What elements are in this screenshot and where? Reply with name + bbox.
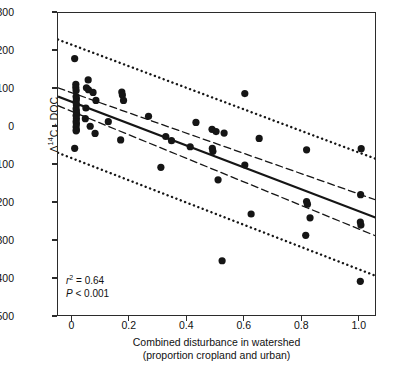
data-point bbox=[221, 129, 228, 136]
data-point bbox=[71, 145, 78, 152]
x-tick-mark bbox=[71, 316, 72, 321]
x-tick-mark bbox=[358, 316, 359, 321]
p-value: < 0.001 bbox=[75, 288, 109, 299]
data-point bbox=[82, 104, 89, 111]
data-point bbox=[241, 90, 248, 97]
y-tick-label: -300 bbox=[0, 235, 14, 245]
y-tick-label: 300 bbox=[0, 7, 14, 17]
x-tick-mark bbox=[186, 316, 187, 321]
x-tick-label: 0.2 bbox=[109, 320, 149, 331]
x-tick-label: 0.4 bbox=[166, 320, 206, 331]
x-axis-title-line2: (proportion cropland and urban) bbox=[57, 349, 376, 362]
p-symbol: P bbox=[66, 288, 73, 299]
data-point bbox=[218, 257, 225, 264]
data-point bbox=[87, 123, 94, 130]
data-point bbox=[89, 89, 96, 96]
r-squared-text: r2 = 0.64 bbox=[66, 272, 109, 288]
y-tick-label: -200 bbox=[0, 197, 14, 207]
data-point bbox=[302, 232, 309, 239]
stats-annotation: r2 = 0.64 P < 0.001 bbox=[66, 272, 109, 300]
plot-frame bbox=[57, 12, 376, 316]
x-tick-mark bbox=[301, 316, 302, 321]
data-point bbox=[71, 55, 78, 62]
data-point bbox=[117, 136, 124, 143]
data-point bbox=[212, 128, 219, 135]
data-point bbox=[248, 210, 255, 217]
data-point bbox=[358, 145, 365, 152]
data-point bbox=[357, 278, 364, 285]
prediction-band-upper bbox=[58, 40, 375, 160]
figure-container: Δ14C - DOC 3002001000-100-200-300-400-50… bbox=[0, 0, 393, 371]
data-point bbox=[209, 148, 216, 155]
data-point bbox=[168, 137, 175, 144]
plot-svg bbox=[58, 13, 375, 315]
data-point bbox=[306, 214, 313, 221]
x-tick-mark bbox=[128, 316, 129, 321]
x-tick-label: 0.8 bbox=[281, 320, 321, 331]
x-axis-title: Combined disturbance in watershed (propo… bbox=[57, 336, 376, 362]
y-axis-isotope: 14 bbox=[46, 137, 55, 145]
data-point bbox=[303, 146, 310, 153]
y-tick-label: 100 bbox=[0, 83, 14, 93]
r-squared-value: = 0.64 bbox=[76, 275, 104, 286]
data-point bbox=[82, 115, 89, 122]
data-point bbox=[105, 118, 112, 125]
y-tick-label: 0 bbox=[0, 121, 14, 131]
y-tick-label: -100 bbox=[0, 159, 14, 169]
x-axis-title-line1: Combined disturbance in watershed bbox=[57, 336, 376, 349]
data-point bbox=[192, 119, 199, 126]
y-tick-label: 200 bbox=[0, 45, 14, 55]
x-tick-mark bbox=[243, 316, 244, 321]
data-point bbox=[304, 201, 311, 208]
plot-canvas bbox=[58, 13, 375, 315]
data-point bbox=[120, 97, 127, 104]
data-point bbox=[357, 221, 364, 228]
y-tick-label: -500 bbox=[0, 311, 14, 321]
data-point bbox=[85, 76, 92, 83]
y-tick-label: -400 bbox=[0, 273, 14, 283]
x-tick-label: 0 bbox=[51, 320, 91, 331]
x-tick-label: 1.0 bbox=[339, 320, 379, 331]
data-point bbox=[73, 127, 80, 134]
confidence-band-upper bbox=[58, 88, 375, 200]
data-point bbox=[92, 97, 99, 104]
x-tick-label: 0.6 bbox=[224, 320, 264, 331]
data-point bbox=[256, 135, 263, 142]
r-exponent: 2 bbox=[69, 274, 73, 281]
p-value-text: P < 0.001 bbox=[66, 288, 109, 301]
data-point bbox=[187, 143, 194, 150]
data-point bbox=[214, 176, 221, 183]
data-point bbox=[162, 133, 169, 140]
data-point bbox=[357, 191, 364, 198]
data-point bbox=[241, 161, 248, 168]
data-point bbox=[157, 164, 164, 171]
data-point bbox=[91, 130, 98, 137]
regression-line bbox=[58, 97, 375, 219]
data-point bbox=[145, 113, 152, 120]
